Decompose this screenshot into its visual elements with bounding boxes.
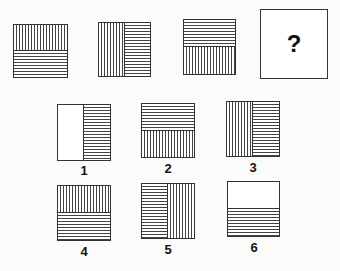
sequence-tile-3 <box>183 19 236 75</box>
blank-half <box>58 105 84 160</box>
vertical-stripes-half <box>14 25 67 51</box>
horizontal-stripes-half <box>14 51 67 77</box>
option-2-label: 2 <box>141 161 195 176</box>
option-3-label: 3 <box>226 160 280 175</box>
sequence-tile-1 <box>13 24 68 78</box>
vertical-stripes-half <box>227 102 253 156</box>
blank-half <box>228 182 279 209</box>
horizontal-stripes-half <box>142 104 194 131</box>
option-1[interactable] <box>57 104 111 161</box>
horizontal-stripes-half <box>253 102 279 156</box>
option-5-label: 5 <box>141 242 195 257</box>
option-2[interactable] <box>141 103 195 158</box>
horizontal-stripes-half <box>84 105 110 160</box>
option-5[interactable] <box>141 183 195 239</box>
option-4[interactable] <box>57 185 111 241</box>
vertical-stripes-half <box>168 184 194 238</box>
option-6[interactable] <box>227 181 280 237</box>
vertical-stripes-half <box>184 47 235 74</box>
horizontal-stripes-half <box>58 213 110 240</box>
option-3[interactable] <box>226 101 280 157</box>
sequence-tile-2 <box>98 22 151 77</box>
vertical-stripes-half <box>99 23 125 76</box>
option-1-label: 1 <box>57 163 111 178</box>
vertical-stripes-half <box>142 131 194 158</box>
option-4-label: 4 <box>57 244 111 259</box>
option-6-label: 6 <box>227 240 281 255</box>
horizontal-stripes-half <box>184 20 235 47</box>
question-mark: ? <box>261 30 327 58</box>
vertical-stripes-half <box>58 186 110 213</box>
horizontal-stripes-half <box>125 23 151 76</box>
sequence-tile-unknown: ? <box>260 9 328 79</box>
horizontal-stripes-half <box>142 184 168 238</box>
horizontal-stripes-half <box>228 209 279 236</box>
